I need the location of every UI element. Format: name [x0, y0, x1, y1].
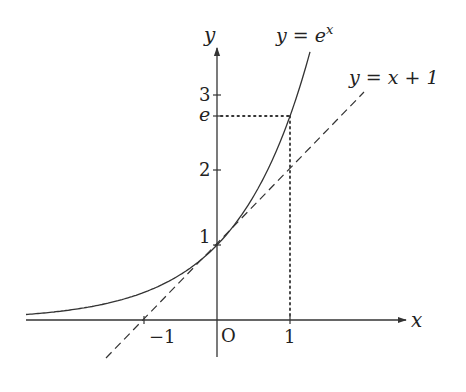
exponential-curve — [26, 52, 310, 315]
y-axis-label: y — [203, 23, 216, 47]
exp-label-exponent: x — [326, 22, 334, 37]
x-tick-label-1: 1 — [284, 326, 295, 347]
y-tick-label-3: 3 — [199, 84, 210, 105]
tangent-line-label: y = x + 1 — [348, 66, 439, 88]
x-axis-label: x — [411, 308, 422, 332]
y-tick-label-2: 2 — [199, 159, 210, 180]
origin-label: O — [221, 325, 236, 346]
y-tick-label-1: 1 — [199, 226, 210, 247]
exponential-curve-label: y = ex — [275, 22, 334, 46]
x-tick-label-neg1: −1 — [149, 326, 176, 347]
dotted-guides — [221, 116, 290, 318]
exponential-tangent-diagram: y x O −1 1 1 2 e 3 y = ex y = x + 1 — [0, 0, 466, 392]
y-tick-label-e: e — [199, 103, 210, 125]
exp-label-base: y = e — [275, 24, 326, 46]
